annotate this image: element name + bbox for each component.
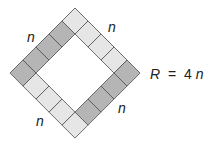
side-label-lower-left: n — [36, 113, 44, 129]
equation: R = 4 n — [150, 66, 204, 82]
ring-diagram: n n n n R = 4 n — [0, 0, 206, 151]
equation-lhs: R — [150, 66, 160, 82]
side-label-upper-left: n — [27, 29, 35, 45]
equation-var: n — [196, 66, 204, 82]
equation-op: = — [168, 66, 176, 82]
equation-coef: 4 — [184, 66, 192, 82]
side-label-lower-right: n — [118, 100, 126, 116]
side-label-upper-right: n — [108, 19, 116, 35]
square-ring — [10, 8, 140, 138]
